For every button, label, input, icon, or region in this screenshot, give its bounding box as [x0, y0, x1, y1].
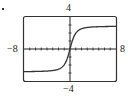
- graph-window: [0, 0, 128, 98]
